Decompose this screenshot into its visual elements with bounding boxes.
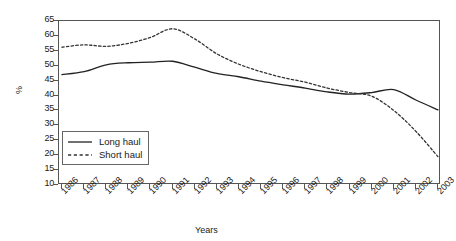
y-axis-tick-label: 15 bbox=[32, 164, 54, 173]
y-axis-tick-label: 40 bbox=[32, 90, 54, 99]
y-axis-tick-label: 65 bbox=[32, 15, 54, 24]
x-axis-title: Years bbox=[195, 225, 218, 235]
y-axis-tick-labels: 101520253035404550556065 bbox=[28, 20, 54, 184]
legend-item-short-haul: Short haul bbox=[67, 148, 142, 161]
y-axis-tick-label: 45 bbox=[32, 75, 54, 84]
chart-legend: Long haul Short haul bbox=[62, 131, 149, 165]
legend-label-long-haul: Long haul bbox=[99, 137, 141, 147]
y-axis-tick-label: 50 bbox=[32, 60, 54, 69]
y-axis-tick-label: 55 bbox=[32, 45, 54, 54]
y-axis-tick-label: 25 bbox=[32, 134, 54, 143]
series-line-long-haul bbox=[62, 61, 438, 110]
legend-item-long-haul: Long haul bbox=[67, 135, 142, 148]
y-axis-title: % bbox=[14, 86, 24, 94]
legend-swatch-dashed bbox=[67, 150, 93, 160]
legend-label-short-haul: Short haul bbox=[99, 150, 142, 160]
y-axis-tick-label: 20 bbox=[32, 149, 54, 158]
y-axis-tick-label: 10 bbox=[32, 179, 54, 188]
legend-swatch-solid bbox=[67, 137, 93, 147]
y-axis-tick-label: 30 bbox=[32, 119, 54, 128]
x-axis-tick-labels: 1986198719881989199019911992199319941995… bbox=[58, 189, 454, 225]
y-axis-tick-label: 35 bbox=[32, 104, 54, 113]
y-axis-tick-label: 60 bbox=[32, 30, 54, 39]
